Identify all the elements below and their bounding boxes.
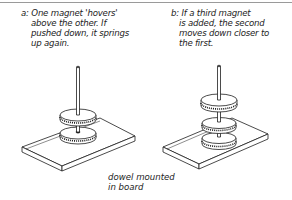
magnet-illustration bbox=[0, 0, 292, 200]
dowel-a bbox=[77, 66, 80, 115]
annotation-line-1: dowel mounted bbox=[108, 172, 175, 182]
panel-a-drawing bbox=[22, 66, 135, 171]
annotation-line-2: in board bbox=[108, 182, 175, 192]
dowel-b bbox=[218, 65, 221, 100]
panel-b-drawing bbox=[163, 65, 268, 169]
dowel-annotation: dowel mounted in board bbox=[108, 172, 175, 192]
